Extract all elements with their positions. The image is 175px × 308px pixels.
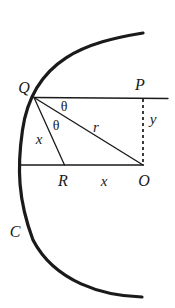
label-segment-x-base: x bbox=[101, 174, 108, 189]
label-point-o: O bbox=[138, 173, 150, 189]
label-segment-y: y bbox=[150, 112, 157, 127]
label-segment-x-diagonal: x bbox=[36, 132, 43, 147]
segment-qp bbox=[34, 98, 168, 99]
geometry-figure: Q P O R C θ θ r x x y bbox=[0, 0, 175, 308]
label-point-r: R bbox=[58, 173, 68, 189]
label-point-p: P bbox=[135, 77, 145, 93]
segment-qo bbox=[34, 98, 143, 166]
label-segment-r: r bbox=[93, 120, 99, 135]
label-angle-upper-theta: θ bbox=[61, 100, 68, 114]
label-point-q: Q bbox=[18, 80, 30, 96]
diagram-canvas bbox=[0, 0, 175, 308]
label-curve-c: C bbox=[10, 224, 21, 240]
label-angle-lower-theta: θ bbox=[53, 119, 60, 133]
